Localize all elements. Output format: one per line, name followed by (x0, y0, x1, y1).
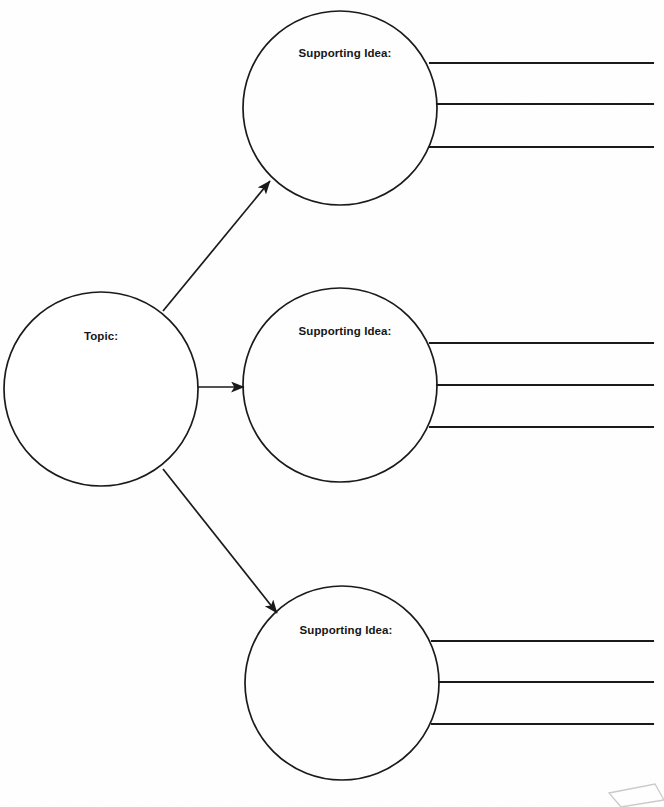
supporting-idea-circle-field-1[interactable] (243, 11, 437, 205)
write-line-field[interactable] (437, 97, 653, 111)
write-line-field[interactable] (432, 634, 653, 648)
write-line-field[interactable] (430, 56, 653, 70)
write-line-field[interactable] (439, 675, 653, 689)
graphic-organizer-page: Topic: Supporting Idea: Supporting Idea:… (0, 0, 664, 807)
write-line-field[interactable] (437, 378, 653, 392)
supporting-idea-circle-field-3[interactable] (245, 586, 439, 780)
write-line-field[interactable] (432, 717, 653, 731)
write-line-field[interactable] (430, 336, 653, 350)
write-line-field[interactable] (430, 420, 653, 434)
topic-circle-field[interactable] (4, 292, 198, 486)
write-line-field[interactable] (430, 140, 653, 154)
supporting-idea-circle-field-2[interactable] (243, 288, 437, 482)
